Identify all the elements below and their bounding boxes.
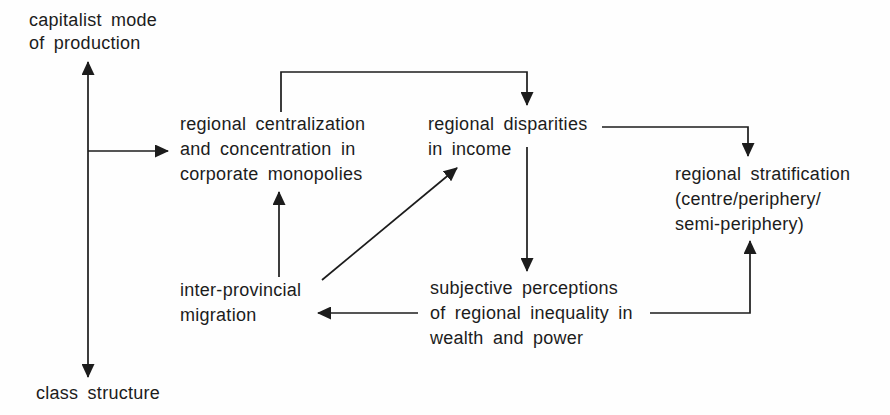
node-line: migration: [180, 303, 301, 328]
flow-diagram: capitalist mode of production class stru…: [0, 0, 890, 415]
node-line: corporate monopolies: [180, 162, 365, 187]
node-line: and concentration in: [180, 137, 365, 162]
node-line: of regional inequality in: [430, 301, 633, 326]
edge-centralization-to-disparities-arrow: [281, 72, 527, 112]
node-line: in income: [428, 137, 587, 162]
edge-perceptions-to-stratification-arrow: [650, 241, 750, 313]
node-inter-provincial-migration: inter-provincial migration: [180, 278, 301, 328]
node-line: regional stratification: [675, 162, 850, 187]
node-class-structure: class structure: [36, 381, 160, 406]
node-line: of production: [29, 32, 157, 55]
node-line: wealth and power: [430, 326, 633, 351]
node-capitalist-mode-of-production: capitalist mode of production: [29, 9, 157, 55]
node-regional-stratification: regional stratification (centre/peripher…: [675, 162, 850, 237]
node-regional-centralization: regional centralization and concentratio…: [180, 112, 365, 187]
node-line: (centre/periphery/: [675, 187, 850, 212]
node-line: regional disparities: [428, 112, 587, 137]
node-line: capitalist mode: [29, 9, 157, 32]
node-line: regional centralization: [180, 112, 365, 137]
edge-disparities-to-stratification-arrow: [602, 127, 748, 156]
node-regional-disparities-in-income: regional disparities in income: [428, 112, 587, 162]
node-line: class structure: [36, 381, 160, 406]
node-line: inter-provincial: [180, 278, 301, 303]
node-line: subjective perceptions: [430, 276, 633, 301]
node-subjective-perceptions: subjective perceptions of regional inequ…: [430, 276, 633, 351]
node-line: semi-periphery): [675, 212, 850, 237]
